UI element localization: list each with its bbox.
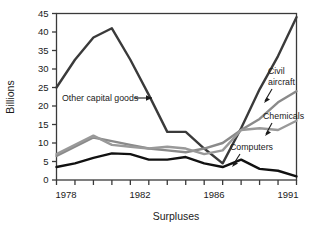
annotation-label-other-capital-goods: Other capital goods [62, 93, 139, 103]
annotation-label-computers: Computers [230, 142, 274, 152]
x-tick-label-1991: 1991 [277, 189, 298, 200]
y-tick-label-35: 35 [38, 45, 49, 56]
x-axis-title: Surpluses [153, 210, 200, 222]
chart-container: 051015202530354045 1978 1982 1986 1991 S… [0, 0, 313, 236]
y-tick-label-45: 45 [38, 8, 49, 19]
annotation-label-civil-aircraft-line1: Civil [268, 66, 285, 76]
y-tick-label-25: 25 [38, 82, 49, 93]
annotation-label-civil-aircraft-line2: aircraft [268, 77, 295, 87]
y-tick-label-5: 5 [43, 156, 48, 167]
x-tick-label-1982: 1982 [129, 189, 150, 200]
y-tick-label-0: 0 [43, 174, 48, 185]
y-axis-title: Billions [4, 80, 16, 113]
y-tick-label-10: 10 [38, 137, 49, 148]
x-tick-label-1986: 1986 [203, 189, 224, 200]
y-tick-label-20: 20 [38, 100, 49, 111]
line-chart: 051015202530354045 1978 1982 1986 1991 S… [0, 0, 313, 236]
y-tick-label-30: 30 [38, 63, 49, 74]
y-tick-label-40: 40 [38, 26, 49, 37]
x-tick-label-1978: 1978 [55, 189, 76, 200]
annotation-label-chemicals: Chemicals [263, 111, 305, 121]
y-tick-label-15: 15 [38, 119, 49, 130]
